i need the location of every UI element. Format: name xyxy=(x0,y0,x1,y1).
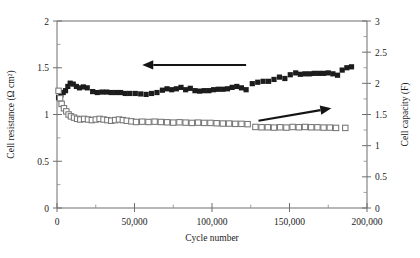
data-point-open-square xyxy=(56,88,61,93)
data-point-open-square xyxy=(171,120,176,125)
data-point-filled-square xyxy=(109,90,114,95)
data-point-open-square xyxy=(296,125,301,130)
data-point-open-square xyxy=(233,121,238,126)
y-tick-label-left: 2 xyxy=(44,17,49,27)
y-tick-label-right: 0 xyxy=(375,204,380,214)
data-point-open-square xyxy=(302,124,307,129)
data-point-filled-square xyxy=(335,73,340,78)
data-point-open-square xyxy=(343,125,348,130)
data-point-open-square xyxy=(253,124,258,129)
arrow-to-right-axis-shaft xyxy=(259,110,321,121)
data-point-filled-square xyxy=(302,71,307,76)
data-point-open-square xyxy=(271,125,276,130)
data-point-open-square xyxy=(290,124,295,129)
data-point-filled-square xyxy=(330,71,335,76)
data-point-filled-square xyxy=(118,90,123,95)
data-point-filled-square xyxy=(321,71,326,76)
data-point-filled-square xyxy=(307,71,312,76)
data-point-open-square xyxy=(309,125,314,130)
y-tick-label-right: 2.5 xyxy=(375,48,387,58)
data-point-filled-square xyxy=(344,65,349,70)
data-point-filled-square xyxy=(316,71,321,76)
data-markers-group xyxy=(56,64,354,130)
data-point-filled-square xyxy=(216,87,221,92)
x-tick-label: 200,000 xyxy=(352,217,383,227)
data-point-filled-square xyxy=(261,79,266,84)
data-point-filled-square xyxy=(349,64,354,69)
x-tick-label: 0 xyxy=(55,217,60,227)
x-axis-title: Cycle number xyxy=(185,233,239,243)
data-point-open-square xyxy=(220,121,225,126)
y-tick-label-right: 0.5 xyxy=(375,172,387,182)
data-point-filled-square xyxy=(326,70,331,75)
data-point-open-square xyxy=(321,125,326,130)
data-point-filled-square xyxy=(230,85,235,90)
data-point-filled-square xyxy=(127,91,132,96)
data-point-open-square xyxy=(146,119,151,124)
data-point-filled-square xyxy=(206,88,211,93)
data-point-filled-square xyxy=(340,67,345,72)
data-point-filled-square xyxy=(85,85,90,90)
y-tick-label-left: 1.5 xyxy=(37,63,49,73)
data-point-open-square xyxy=(259,125,264,130)
data-point-open-square xyxy=(133,119,138,124)
data-point-filled-square xyxy=(160,88,165,93)
data-point-filled-square xyxy=(266,79,271,84)
data-point-filled-square xyxy=(202,88,207,93)
data-point-filled-square xyxy=(298,72,303,77)
data-point-open-square xyxy=(164,120,169,125)
series-cell-resistance xyxy=(56,64,354,100)
data-point-filled-square xyxy=(293,70,298,75)
data-point-open-square xyxy=(333,125,338,130)
data-point-filled-square xyxy=(183,87,188,92)
data-point-open-square xyxy=(152,119,157,124)
chart-canvas: 050,000100,000150,000200,00000.511.5200.… xyxy=(0,0,420,258)
y-tick-label-right: 1 xyxy=(375,141,380,151)
data-point-open-square xyxy=(158,119,163,124)
y-tick-label-right: 3 xyxy=(375,17,380,27)
data-point-filled-square xyxy=(154,90,159,95)
x-tick-label: 150,000 xyxy=(274,217,305,227)
y-tick-label-right: 2 xyxy=(375,79,380,89)
data-point-filled-square xyxy=(244,87,249,92)
data-point-filled-square xyxy=(211,87,216,92)
data-point-open-square xyxy=(208,120,213,125)
data-point-open-square xyxy=(177,120,182,125)
data-point-open-square xyxy=(195,120,200,125)
data-point-open-square xyxy=(202,120,207,125)
data-point-open-square xyxy=(265,125,270,130)
data-point-open-square xyxy=(226,121,231,126)
data-point-filled-square xyxy=(99,89,104,94)
y-tick-label-left: 0.5 xyxy=(37,157,49,167)
data-point-filled-square xyxy=(220,87,225,92)
data-point-filled-square xyxy=(250,81,255,86)
data-point-filled-square xyxy=(104,89,109,94)
data-point-open-square xyxy=(284,125,289,130)
data-point-filled-square xyxy=(312,71,317,76)
y-tick-label-right: 1.5 xyxy=(375,110,387,120)
data-point-filled-square xyxy=(113,90,118,95)
data-point-filled-square xyxy=(144,92,149,97)
data-point-filled-square xyxy=(271,77,276,82)
data-point-filled-square xyxy=(133,91,138,96)
data-point-filled-square xyxy=(239,85,244,90)
data-point-open-square xyxy=(214,121,219,126)
data-point-filled-square xyxy=(164,86,169,91)
data-point-filled-square xyxy=(277,75,282,80)
data-point-filled-square xyxy=(123,91,128,96)
data-point-filled-square xyxy=(90,89,95,94)
x-tick-label: 50,000 xyxy=(121,217,147,227)
data-point-filled-square xyxy=(138,91,143,96)
data-point-filled-square xyxy=(288,72,293,77)
data-point-filled-square xyxy=(234,84,239,89)
data-point-filled-square xyxy=(188,86,193,91)
data-point-open-square xyxy=(315,125,320,130)
data-point-filled-square xyxy=(255,80,260,85)
data-point-open-square xyxy=(239,121,244,126)
data-point-open-square xyxy=(278,125,283,130)
figure-cell-resistance-capacity-vs-cycle-number: 050,000100,000150,000200,00000.511.5200.… xyxy=(0,0,420,258)
data-point-filled-square xyxy=(197,89,202,94)
data-point-filled-square xyxy=(95,90,100,95)
y-axis-title-left: Cell resistance (Ω cm²) xyxy=(6,70,17,158)
y-axis-title-right: Cell capacity (F) xyxy=(400,83,411,147)
